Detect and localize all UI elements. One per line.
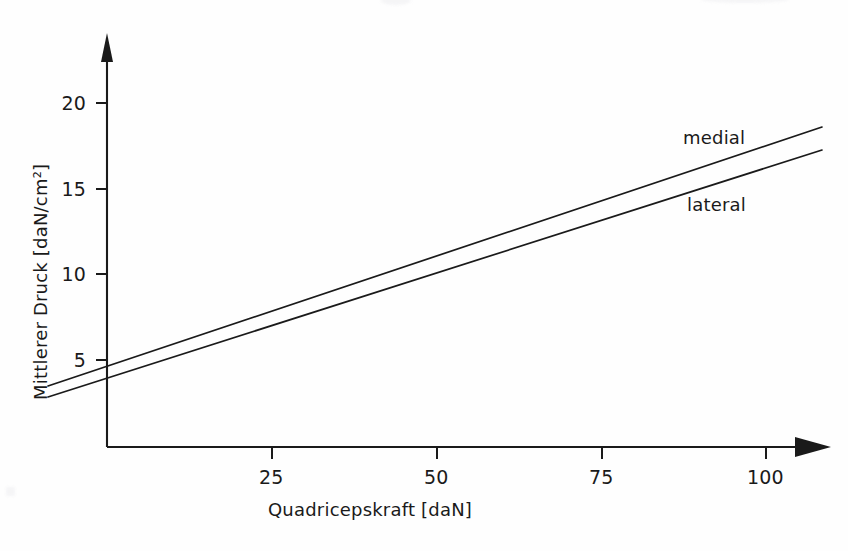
series-line-medial [48,127,822,386]
x-tick-label-100: 100 [747,466,784,488]
y-axis [101,33,113,447]
x-tick-label-25: 25 [259,466,284,488]
x-axis-title: Quadricepskraft [daN] [268,499,472,520]
y-axis-ticks [96,103,107,360]
y-tick-label-20: 20 [34,92,86,114]
x-axis [107,437,831,457]
series-label-lateral: lateral [687,194,746,215]
chart-figure: 20 15 10 5 25 50 75 100 Quadricepskraft … [0,0,848,551]
x-tick-label-50: 50 [424,466,449,488]
series-label-medial: medial [683,127,745,148]
x-axis-ticks [272,447,766,459]
y-axis-title: Mittlerer Druck [daN/cm²] [30,164,51,400]
series-line-lateral [48,150,822,397]
x-tick-label-75: 75 [589,466,614,488]
